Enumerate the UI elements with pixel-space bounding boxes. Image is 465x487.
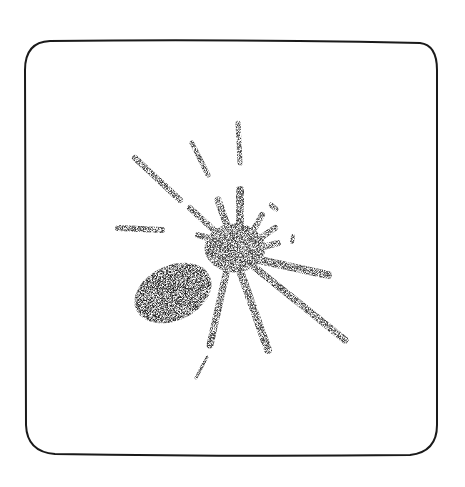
spider-illustration bbox=[0, 0, 465, 487]
motion-stroke bbox=[118, 228, 162, 230]
motion-stroke bbox=[292, 236, 293, 242]
motion-stroke bbox=[271, 205, 276, 209]
motion-stroke bbox=[238, 123, 240, 163]
